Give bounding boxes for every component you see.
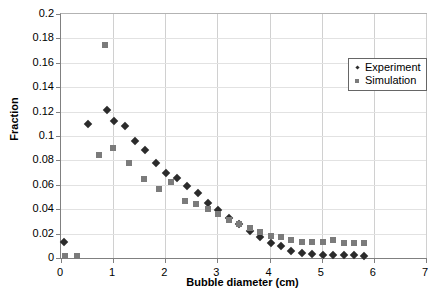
data-point-simulation	[182, 198, 188, 204]
data-point-experiment	[339, 251, 347, 259]
data-point-simulation	[126, 160, 132, 166]
legend-label-simulation: Simulation	[365, 74, 416, 87]
data-point-simulation	[299, 239, 305, 245]
y-tick-label: 0.08	[33, 153, 54, 165]
y-tick	[56, 234, 61, 235]
y-tick-label: 0.14	[33, 80, 54, 92]
y-tick-label: 0	[48, 251, 54, 263]
y-tick-label: 0.02	[33, 227, 54, 239]
y-tick-label: 0.06	[33, 178, 54, 190]
data-point-experiment	[120, 121, 128, 129]
gridline-vertical	[374, 14, 375, 258]
diamond-marker-icon	[352, 66, 362, 69]
data-point-simulation	[215, 211, 221, 217]
data-point-experiment	[298, 249, 306, 257]
data-point-simulation	[193, 201, 199, 207]
data-point-simulation	[236, 221, 242, 227]
data-point-experiment	[84, 120, 92, 128]
data-point-experiment	[266, 239, 274, 247]
y-axis-label: Fraction	[8, 79, 20, 159]
data-point-experiment	[350, 251, 358, 259]
data-point-simulation	[102, 42, 108, 48]
data-point-experiment	[183, 182, 191, 190]
data-point-experiment	[319, 250, 327, 258]
gridline-vertical	[322, 14, 323, 258]
y-tick	[56, 112, 61, 113]
gridline-vertical	[217, 14, 218, 258]
gridline-horizontal	[61, 38, 426, 39]
x-tick	[426, 258, 427, 263]
data-point-simulation	[226, 217, 232, 223]
data-point-simulation	[156, 186, 162, 192]
gridline-horizontal	[61, 160, 426, 161]
data-point-simulation	[288, 237, 294, 243]
data-point-simulation	[278, 234, 284, 240]
data-point-simulation	[257, 229, 263, 235]
data-point-simulation	[341, 240, 347, 246]
legend-item-simulation: Simulation	[352, 74, 421, 87]
data-point-experiment	[287, 247, 295, 255]
data-point-simulation	[268, 233, 274, 239]
data-point-experiment	[360, 251, 368, 259]
legend-label-experiment: Experiment	[365, 61, 421, 74]
data-point-simulation	[351, 240, 357, 246]
y-tick	[56, 160, 61, 161]
data-point-experiment	[173, 174, 181, 182]
data-point-experiment	[193, 189, 201, 197]
x-axis-label: Bubble diameter (cm)	[60, 276, 425, 288]
grid	[61, 14, 426, 258]
y-tick-label: 0.04	[33, 202, 54, 214]
legend: Experiment Simulation	[348, 58, 427, 91]
data-point-simulation	[74, 253, 80, 259]
x-tick	[374, 258, 375, 263]
gridline-vertical	[270, 14, 271, 258]
data-point-experiment	[103, 106, 111, 114]
data-point-experiment	[152, 159, 160, 167]
y-tick	[56, 258, 61, 259]
x-tick	[165, 258, 166, 263]
y-tick	[56, 136, 61, 137]
y-tick-label: 0.12	[33, 105, 54, 117]
data-point-simulation	[330, 237, 336, 243]
gridline-horizontal	[61, 136, 426, 137]
gridline-horizontal	[61, 112, 426, 113]
data-point-simulation	[141, 176, 147, 182]
data-point-experiment	[131, 137, 139, 145]
data-point-simulation	[168, 179, 174, 185]
data-point-simulation	[96, 152, 102, 158]
y-tick-label: 0.18	[33, 31, 54, 43]
y-tick	[56, 87, 61, 88]
data-point-experiment	[329, 251, 337, 259]
data-point-experiment	[141, 146, 149, 154]
chart-figure: Experiment Simulation 0123456700.020.040…	[0, 0, 439, 295]
data-point-simulation	[110, 145, 116, 151]
data-point-experiment	[308, 250, 316, 258]
gridline-horizontal	[61, 234, 426, 235]
y-tick	[56, 14, 61, 15]
data-point-experiment	[277, 242, 285, 250]
gridline-vertical	[165, 14, 166, 258]
x-tick	[61, 258, 62, 263]
data-point-simulation	[62, 253, 68, 259]
y-tick	[56, 185, 61, 186]
x-tick	[217, 258, 218, 263]
data-point-simulation	[247, 225, 253, 231]
plot-area: Experiment Simulation	[60, 13, 427, 259]
data-point-simulation	[205, 206, 211, 212]
y-tick	[56, 209, 61, 210]
y-tick-label: 0.16	[33, 56, 54, 68]
y-tick-label: 0.2	[39, 7, 54, 19]
data-point-simulation	[309, 239, 315, 245]
gridline-horizontal	[61, 185, 426, 186]
y-tick	[56, 63, 61, 64]
data-point-experiment	[162, 168, 170, 176]
data-point-simulation	[320, 239, 326, 245]
data-point-experiment	[110, 117, 118, 125]
gridline-horizontal	[61, 209, 426, 210]
legend-item-experiment: Experiment	[352, 61, 421, 74]
data-point-experiment	[59, 237, 67, 245]
gridline-vertical	[426, 14, 427, 258]
x-tick	[322, 258, 323, 263]
x-tick	[270, 258, 271, 263]
square-marker-icon	[352, 79, 362, 83]
